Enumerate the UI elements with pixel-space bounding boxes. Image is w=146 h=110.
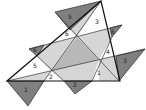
region-label: 5	[33, 62, 37, 69]
dark-triangle-label: 6	[111, 28, 115, 35]
region-label: 2	[49, 73, 53, 80]
dark-triangle-label: 2	[73, 81, 77, 88]
geometry-diagram: 123656 364521	[0, 0, 146, 110]
region-label: 3	[95, 18, 99, 25]
dark-triangle-label: 5	[68, 13, 72, 20]
region-label: 4	[106, 48, 110, 55]
dark-triangle-label: 6	[33, 46, 37, 53]
dark-triangle-label: 1	[24, 86, 28, 93]
region-label: 6	[65, 30, 69, 37]
dark-triangle-label: 3	[123, 57, 127, 64]
region-label: 1	[97, 69, 101, 76]
